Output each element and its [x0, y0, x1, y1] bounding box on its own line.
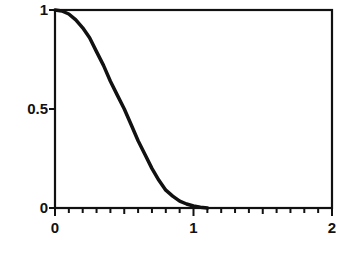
- axes-box: [55, 10, 332, 208]
- x-tick-label: 0: [51, 219, 59, 236]
- y-axis-ticks: 00.51: [27, 1, 55, 216]
- y-tick-label: 0.5: [27, 100, 48, 117]
- line-chart: 012 00.51: [0, 0, 353, 259]
- plot-frame: [55, 10, 332, 208]
- x-axis-ticks: 012: [51, 208, 336, 236]
- x-tick-label: 2: [328, 219, 336, 236]
- curve-line: [55, 10, 207, 208]
- x-tick-label: 1: [189, 219, 197, 236]
- y-tick-label: 1: [40, 1, 48, 18]
- y-tick-label: 0: [40, 199, 48, 216]
- data-series: [55, 10, 207, 208]
